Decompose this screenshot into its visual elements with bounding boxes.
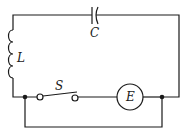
top-wire-right (96, 15, 179, 97)
switch-label: S (55, 79, 63, 93)
switch-contact-right (72, 95, 78, 101)
switch-contact-left (37, 94, 43, 100)
circuit-diagram: C L S E (0, 0, 181, 138)
source-label: E (125, 90, 135, 104)
capacitor-label: C (90, 26, 99, 40)
inductor-label: L (16, 51, 25, 65)
inductor-coil (9, 30, 14, 78)
junction-right (160, 95, 165, 100)
junction-left (23, 95, 28, 100)
